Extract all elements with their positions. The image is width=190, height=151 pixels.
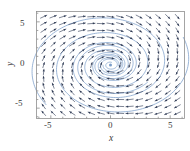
y-axis-tick-label-0: 0 bbox=[20, 59, 25, 68]
vector-field-plot bbox=[0, 0, 190, 151]
x-axis-tick-label-0: 0 bbox=[108, 121, 113, 130]
direction-field-arrows bbox=[41, 14, 181, 115]
y-axis-title: y bbox=[6, 62, 16, 66]
x-axis-tick-label-5: 5 bbox=[168, 121, 173, 130]
y-axis-tick-label-5: 5 bbox=[20, 19, 25, 28]
phase-portrait-figure: 5 0 -5 -5 0 5 x y bbox=[0, 0, 190, 151]
x-axis-tick-label-minus-5: -5 bbox=[44, 121, 52, 130]
x-axis-title: x bbox=[109, 134, 113, 144]
y-axis-tick-label-minus-5: -5 bbox=[15, 99, 23, 108]
